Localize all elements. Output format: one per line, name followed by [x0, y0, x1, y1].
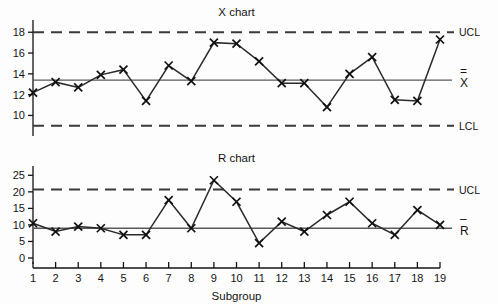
xtick-label-14: 14 [321, 272, 333, 284]
xtick-label-19: 19 [434, 272, 446, 284]
r-chart-point-9 [210, 176, 218, 184]
xtick-label-12: 12 [276, 272, 288, 284]
xtick-label-11: 11 [253, 272, 264, 284]
x-axis-title: Subgroup [212, 290, 262, 302]
r-chart-point-11 [255, 239, 263, 247]
r-chart-point-7 [165, 196, 173, 204]
xtick-label-6: 6 [143, 272, 149, 284]
xbar-chart-point-7 [165, 62, 173, 70]
r-chart-point-10 [233, 198, 241, 206]
xbar-chart-point-14 [323, 103, 331, 111]
xbar-chart-LCL-label: LCL [459, 120, 478, 132]
xbar-chart-UCL-label: UCL [459, 26, 480, 38]
xbar-chart-ytick-label: 16 [13, 47, 25, 59]
r-chart-point-14 [323, 211, 331, 219]
r-chart-panel: R chart0510152025UCL–R123456789101112131… [13, 152, 480, 302]
r-chart-title: R chart [218, 152, 256, 164]
xbar-chart-point-15 [346, 70, 354, 78]
r-chart-ytick-label: 5 [19, 235, 25, 247]
r-chart-ytick-label: 20 [13, 186, 25, 198]
r-chart-point-15 [346, 198, 354, 206]
r-chart-point-12 [278, 218, 286, 226]
xtick-label-8: 8 [188, 272, 194, 284]
xtick-label-16: 16 [366, 272, 378, 284]
xbar-chart-panel: X chart1012141618UCL=XLCL [13, 6, 480, 136]
r-chart-ytick-label: 15 [13, 202, 25, 214]
xtick-label-5: 5 [120, 272, 126, 284]
xtick-label-2: 2 [53, 272, 59, 284]
xbar-chart-title: X chart [218, 6, 255, 18]
control-chart-figure: X chart1012141618UCL=XLCLR chart05101520… [0, 0, 498, 304]
xbar-chart-point-19 [436, 36, 444, 44]
r-chart-point-18 [413, 206, 421, 214]
r-chart-ytick-label: 0 [19, 252, 25, 264]
r-chart-ytick-label: 25 [13, 169, 25, 181]
xbar-chart-series-line [33, 40, 440, 108]
xtick-label-7: 7 [166, 272, 172, 284]
control-chart-canvas: X chart1012141618UCL=XLCLR chart05101520… [0, 0, 498, 304]
xbar-chart-ytick-label: 14 [13, 68, 25, 80]
xbar-chart-point-6 [142, 97, 150, 105]
xbar-chart-point-11 [255, 57, 263, 65]
xbar-chart-ytick-label: 18 [13, 26, 25, 38]
r-chart-UCL-label: UCL [459, 184, 480, 196]
xbar-chart-ytick-label: 12 [13, 89, 25, 101]
xtick-label-9: 9 [211, 272, 217, 284]
r-chart-ytick-label: 10 [13, 219, 25, 231]
xbar-chart-point-16 [368, 53, 376, 61]
xtick-label-1: 1 [30, 272, 36, 284]
r-chart-point-17 [391, 231, 399, 239]
r-chart-center-label: R [460, 224, 469, 238]
xtick-label-15: 15 [343, 272, 355, 284]
xtick-label-4: 4 [98, 272, 104, 284]
xbar-chart-point-8 [187, 77, 195, 85]
xtick-label-18: 18 [411, 272, 423, 284]
xtick-label-17: 17 [389, 272, 401, 284]
xbar-chart-center-label: X [460, 76, 468, 90]
xtick-label-10: 10 [230, 272, 242, 284]
r-chart-point-16 [368, 219, 376, 227]
xtick-label-3: 3 [75, 272, 81, 284]
xbar-chart-ytick-label: 10 [13, 109, 25, 121]
xtick-label-13: 13 [298, 272, 310, 284]
